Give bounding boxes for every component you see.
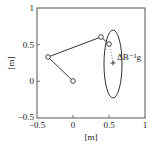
joint-markers	[46, 35, 112, 84]
y-tick-0: 0	[30, 76, 35, 86]
plot-area	[37, 8, 145, 118]
chart: 1 0.5 0 −0.5 −0.5 0 0.5 1 [m] [m] ΔB⁻¹g	[0, 0, 154, 146]
annotation-label: ΔB⁻¹g	[117, 52, 141, 62]
y-tick-labels: 1 0.5 0 −0.5	[18, 3, 35, 122]
joint-marker	[46, 55, 51, 60]
joint-marker	[71, 79, 76, 84]
joint-marker	[99, 35, 104, 40]
end-effector-marker	[107, 42, 112, 47]
y-tick-0.5: 0.5	[23, 40, 35, 50]
x-tick-neg0.5: −0.5	[29, 120, 46, 130]
x-tick-labels: −0.5 0 0.5 1	[29, 120, 147, 130]
y-axis-label: [m]	[6, 57, 16, 70]
x-tick-0: 0	[71, 120, 76, 130]
x-tick-0.5: 0.5	[103, 120, 115, 130]
x-tick-1: 1	[143, 120, 148, 130]
x-axis-label: [m]	[85, 132, 98, 142]
manipulator-links	[48, 37, 109, 81]
plus-marker	[111, 61, 116, 66]
dotted-connector	[110, 46, 113, 63]
y-tick-1: 1	[30, 3, 35, 13]
